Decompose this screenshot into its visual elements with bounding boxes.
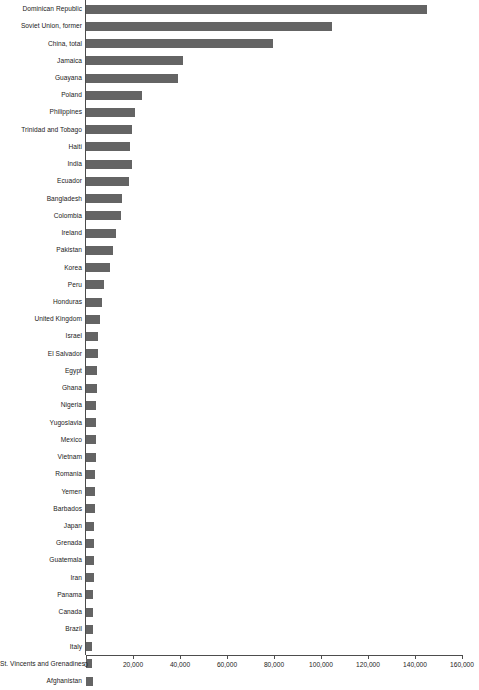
category-label: Trinidad and Tobago bbox=[0, 126, 82, 134]
bar bbox=[86, 91, 142, 100]
chart-row: Ecuador bbox=[0, 173, 479, 190]
bar bbox=[86, 608, 93, 617]
category-label: Philippines bbox=[0, 108, 82, 116]
bar bbox=[86, 435, 96, 444]
chart-row: Japan bbox=[0, 517, 479, 534]
category-label: Vietnam bbox=[0, 453, 82, 461]
category-label: Canada bbox=[0, 608, 82, 616]
bar bbox=[86, 332, 98, 341]
chart-row: Soviet Union, former bbox=[0, 18, 479, 35]
bar bbox=[86, 642, 92, 651]
x-axis-tick bbox=[368, 655, 369, 659]
category-label: Panama bbox=[0, 591, 82, 599]
chart-row: India bbox=[0, 156, 479, 173]
chart-row: Dominican Republic bbox=[0, 1, 479, 18]
bar bbox=[86, 522, 94, 531]
bar bbox=[86, 108, 135, 117]
chart-row: Guatemala bbox=[0, 552, 479, 569]
bar bbox=[86, 39, 273, 48]
chart-row: Brazil bbox=[0, 621, 479, 638]
chart-row: Vietnam bbox=[0, 448, 479, 465]
category-label: Mexico bbox=[0, 436, 82, 444]
bar bbox=[86, 160, 132, 169]
chart-row: Ghana bbox=[0, 380, 479, 397]
bar bbox=[86, 229, 116, 238]
category-label: Pakistan bbox=[0, 246, 82, 254]
category-label: Jamaica bbox=[0, 57, 82, 65]
chart-row: Korea bbox=[0, 259, 479, 276]
bar bbox=[86, 470, 95, 479]
chart-row: Yemen bbox=[0, 483, 479, 500]
bar bbox=[86, 263, 110, 272]
category-label: Peru bbox=[0, 281, 82, 289]
chart-row: Iran bbox=[0, 569, 479, 586]
bar bbox=[86, 539, 94, 548]
bar bbox=[86, 418, 96, 427]
category-label: Barbados bbox=[0, 505, 82, 513]
category-label: Poland bbox=[0, 91, 82, 99]
chart-row: Yugoslavia bbox=[0, 414, 479, 431]
bar bbox=[86, 211, 121, 220]
bar bbox=[86, 315, 100, 324]
y-axis-line bbox=[85, 0, 86, 655]
x-axis-tick bbox=[180, 655, 181, 659]
x-axis-tick bbox=[227, 655, 228, 659]
bar bbox=[86, 246, 113, 255]
bar bbox=[86, 487, 95, 496]
category-label: Afghanistan bbox=[0, 677, 82, 685]
chart-row: Bangladesh bbox=[0, 190, 479, 207]
category-label: Colombia bbox=[0, 212, 82, 220]
category-label: Korea bbox=[0, 264, 82, 272]
bar bbox=[86, 5, 427, 14]
x-axis-tick-label: 160,000 bbox=[450, 661, 474, 669]
x-axis-tick bbox=[462, 655, 463, 659]
category-label: Guatemala bbox=[0, 556, 82, 564]
bar bbox=[86, 677, 93, 686]
category-label: Ghana bbox=[0, 384, 82, 392]
chart-row: Trinidad and Tobago bbox=[0, 121, 479, 138]
chart-row: Ireland bbox=[0, 224, 479, 241]
chart-row: United Kingdom bbox=[0, 311, 479, 328]
category-label: Dominican Republic bbox=[0, 5, 82, 13]
chart-row: Colombia bbox=[0, 207, 479, 224]
bar bbox=[86, 298, 102, 307]
chart-row: Romania bbox=[0, 466, 479, 483]
bar bbox=[86, 280, 104, 289]
chart-row: Guayana bbox=[0, 69, 479, 86]
x-axis-tick bbox=[86, 655, 87, 659]
category-label: Italy bbox=[0, 643, 82, 651]
category-label: Haiti bbox=[0, 143, 82, 151]
category-label: Honduras bbox=[0, 298, 82, 306]
bar bbox=[86, 74, 178, 83]
x-axis-tick-label: 140,000 bbox=[403, 661, 427, 669]
bar bbox=[86, 573, 94, 582]
chart-row: Peru bbox=[0, 276, 479, 293]
bar bbox=[86, 366, 97, 375]
category-label: Soviet Union, former bbox=[0, 22, 82, 30]
x-axis-tick-label: 40,000 bbox=[170, 661, 190, 669]
category-label: St. Vincents and Grenadines bbox=[0, 660, 82, 668]
chart-row: Italy bbox=[0, 638, 479, 655]
category-label: United Kingdom bbox=[0, 315, 82, 323]
chart-row: Haiti bbox=[0, 138, 479, 155]
category-label: El Salvador bbox=[0, 350, 82, 358]
chart-row: Honduras bbox=[0, 293, 479, 310]
bar bbox=[86, 590, 93, 599]
chart-row: Panama bbox=[0, 586, 479, 603]
bar bbox=[86, 625, 93, 634]
category-label: Nigeria bbox=[0, 401, 82, 409]
bar bbox=[86, 384, 97, 393]
chart-row: Nigeria bbox=[0, 397, 479, 414]
category-label: Yugoslavia bbox=[0, 419, 82, 427]
x-axis-tick-label: 0 bbox=[84, 661, 88, 669]
chart-row: Pakistan bbox=[0, 242, 479, 259]
bar bbox=[86, 125, 132, 134]
category-label: Ireland bbox=[0, 229, 82, 237]
x-axis-tick bbox=[133, 655, 134, 659]
bar bbox=[86, 453, 96, 462]
category-label: Brazil bbox=[0, 625, 82, 633]
x-axis-tick bbox=[274, 655, 275, 659]
chart-row: China, total bbox=[0, 35, 479, 52]
x-axis-tick-label: 60,000 bbox=[217, 661, 237, 669]
